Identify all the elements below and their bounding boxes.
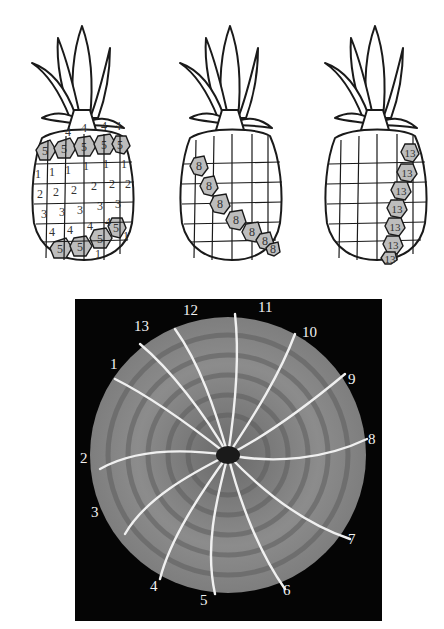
svg-text:8: 8 xyxy=(270,242,276,256)
svg-text:13: 13 xyxy=(402,167,414,179)
svg-text:5: 5 xyxy=(57,242,63,256)
svg-text:5: 5 xyxy=(97,232,103,246)
svg-text:13: 13 xyxy=(388,239,400,251)
spiral-label-8: 8 xyxy=(368,432,376,447)
svg-text:4: 4 xyxy=(87,219,93,233)
svg-text:8: 8 xyxy=(196,159,202,173)
spiral-label-11: 11 xyxy=(258,300,272,315)
svg-text:13: 13 xyxy=(392,203,404,215)
spiral-label-13: 13 xyxy=(134,319,149,334)
svg-text:13: 13 xyxy=(390,221,402,233)
svg-text:8: 8 xyxy=(217,197,223,211)
svg-text:4: 4 xyxy=(101,119,107,133)
svg-text:4: 4 xyxy=(67,223,73,237)
svg-text:8: 8 xyxy=(233,213,239,227)
pineapple-five-spirals: 555 55 5555 4444 111111 222222 33333 444… xyxy=(12,18,152,268)
svg-text:8: 8 xyxy=(249,225,255,239)
spiral-label-5: 5 xyxy=(200,593,208,608)
spiral-label-6: 6 xyxy=(283,583,291,598)
svg-text:5: 5 xyxy=(42,144,48,158)
spiral-label-4: 4 xyxy=(150,579,158,594)
pineapple-illustration: 888 8888 xyxy=(160,18,300,268)
svg-text:13: 13 xyxy=(405,147,417,159)
svg-text:1: 1 xyxy=(123,229,129,243)
svg-text:2: 2 xyxy=(37,187,43,201)
spiral-label-1: 1 xyxy=(110,357,118,372)
spiral-label-3: 3 xyxy=(91,505,99,520)
pineapple-illustration: 555 55 5555 4444 111111 222222 33333 444… xyxy=(12,18,152,268)
spiral-label-2: 2 xyxy=(80,451,88,466)
svg-text:13: 13 xyxy=(396,185,408,197)
svg-text:2: 2 xyxy=(53,185,59,199)
svg-text:4: 4 xyxy=(49,225,55,239)
spiral-label-7: 7 xyxy=(348,532,356,547)
svg-text:5: 5 xyxy=(77,240,83,254)
pineapple-thirteen-spirals: 131313 13131313 xyxy=(305,18,444,268)
svg-text:4: 4 xyxy=(81,121,87,135)
spiral-label-12: 12 xyxy=(183,303,198,318)
svg-text:2: 2 xyxy=(109,177,115,191)
pineapple-illustration: 131313 13131313 xyxy=(305,18,444,268)
spiral-label-9: 9 xyxy=(348,372,356,387)
svg-text:2: 2 xyxy=(91,179,97,193)
svg-text:2: 2 xyxy=(125,177,131,191)
spiral-label-10: 10 xyxy=(302,325,317,340)
svg-text:1: 1 xyxy=(49,165,55,179)
svg-text:5: 5 xyxy=(113,221,119,235)
svg-text:8: 8 xyxy=(206,179,212,193)
svg-text:4: 4 xyxy=(115,119,121,133)
svg-text:8: 8 xyxy=(262,234,268,248)
cone-center xyxy=(216,446,240,464)
svg-text:2: 2 xyxy=(71,183,77,197)
pine-cone-illustration xyxy=(75,299,382,621)
svg-text:3: 3 xyxy=(77,203,83,217)
pineapple-eight-spirals: 888 8888 xyxy=(160,18,300,268)
svg-text:1: 1 xyxy=(121,157,127,171)
pine-cone-photo: 1 2 3 4 5 6 7 8 9 10 11 12 13 xyxy=(75,299,382,621)
svg-text:3: 3 xyxy=(97,199,103,213)
svg-text:1: 1 xyxy=(35,167,41,181)
svg-text:1: 1 xyxy=(95,247,101,261)
svg-text:13: 13 xyxy=(385,253,397,265)
